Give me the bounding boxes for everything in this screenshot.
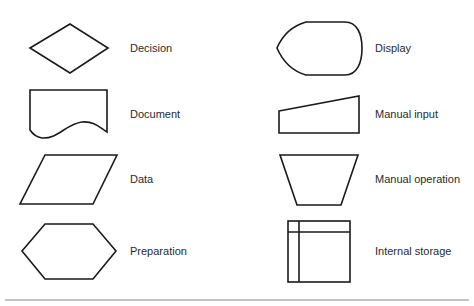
symbol-internal-storage: Internal storage (288, 221, 451, 282)
data-label: Data (130, 173, 154, 185)
manual-input-shape-icon (279, 96, 359, 133)
display-shape-icon (277, 22, 362, 75)
manual-operation-label: Manual operation (375, 173, 460, 185)
internal-storage-label: Internal storage (375, 245, 451, 257)
decision-label: Decision (130, 42, 172, 54)
preparation-label: Preparation (130, 245, 187, 257)
manual-operation-trapezoid-icon (280, 155, 358, 205)
manual-input-label: Manual input (375, 108, 438, 120)
symbol-manual-operation: Manual operation (280, 155, 460, 205)
decision-diamond-icon (30, 24, 108, 73)
symbol-decision: Decision (30, 24, 172, 73)
symbol-document: Document (30, 90, 180, 138)
symbol-display: Display (277, 22, 412, 75)
symbol-data: Data (20, 155, 154, 204)
document-shape-icon (30, 90, 107, 138)
symbol-preparation: Preparation (22, 224, 187, 279)
display-label: Display (375, 42, 412, 54)
data-parallelogram-icon (20, 155, 117, 204)
internal-storage-shape-icon (288, 221, 350, 282)
symbol-manual-input: Manual input (279, 96, 438, 133)
document-label: Document (130, 108, 180, 120)
flowchart-symbols-diagram: Decision Document Data Preparation Displ… (0, 0, 474, 306)
preparation-hexagon-icon (22, 224, 116, 279)
